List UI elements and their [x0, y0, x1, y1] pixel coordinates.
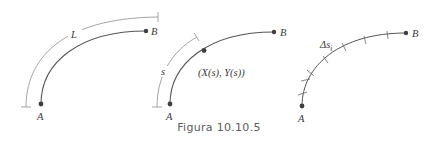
label-b: B — [412, 28, 419, 39]
delta-s-main: Δs — [319, 39, 330, 50]
delta-s-label: Δsi — [319, 39, 332, 53]
length-bracket — [26, 17, 158, 107]
s-label: s — [161, 66, 165, 77]
bracket-end-tick-top — [194, 33, 199, 41]
point-a — [39, 102, 44, 107]
panel-parametrization: s A B (X(s), Y(s)) — [152, 27, 287, 122]
label-b: B — [151, 26, 158, 37]
delta-s-subscript: i — [330, 44, 332, 53]
point-b — [272, 30, 276, 34]
point-b — [404, 31, 408, 35]
curve-a-to-b — [41, 31, 146, 104]
point-coordinates-label: (X(s), Y(s)) — [198, 67, 245, 79]
length-label: L — [70, 29, 77, 40]
figure-caption: Figura 10.10.5 — [0, 121, 438, 134]
panel-subdivision: A B Δsi — [297, 28, 419, 124]
subdivision-ticks — [298, 31, 388, 95]
point-x-y-of-s — [202, 48, 207, 53]
point-a — [168, 102, 173, 107]
panel-arc-length: L A B — [21, 12, 158, 122]
point-a — [300, 104, 305, 109]
curve-a-to-b — [302, 33, 406, 106]
label-b: B — [280, 27, 287, 38]
figure-10-10-5: L A B s A B (X(s), Y(s)) — [0, 0, 438, 145]
point-b — [144, 29, 148, 33]
